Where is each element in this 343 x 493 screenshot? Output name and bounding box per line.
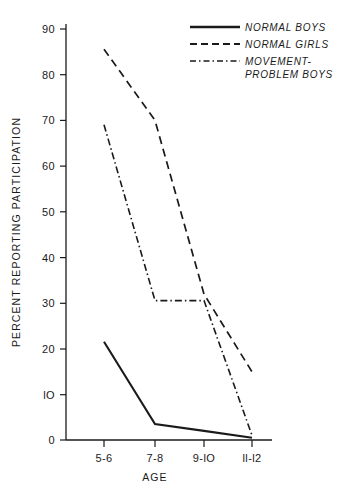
y-tick-label: 0 xyxy=(48,434,55,446)
y-axis-title: PERCENT REPORTING PARTICIPATION xyxy=(10,117,22,347)
x-tick-label: 5-6 xyxy=(95,452,112,464)
y-tick-label: 20 xyxy=(42,343,55,355)
line-chart: 90 80 70 60 50 40 30 20 lO 0 5-6 7-8 9-l… xyxy=(0,0,343,493)
x-axis-tick-labels: 5-6 7-8 9-lO ll-l2 xyxy=(95,452,261,464)
y-axis-tick-labels: 90 80 70 60 50 40 30 20 lO 0 xyxy=(42,23,55,446)
series-line-normal-boys xyxy=(104,342,252,438)
legend-label-movement-problem-boys-line2: PROBLEM BOYS xyxy=(245,69,333,80)
y-tick-label: 90 xyxy=(42,23,55,35)
y-tick-label: 50 xyxy=(42,206,55,218)
y-tick-label: 80 xyxy=(42,69,55,81)
series-line-movement-problem-boys xyxy=(104,125,252,436)
x-tick-label: ll-l2 xyxy=(242,452,261,464)
y-tick-label: 70 xyxy=(42,114,55,126)
y-tick-label: lO xyxy=(43,389,55,401)
legend-label-normal-boys: NORMAL BOYS xyxy=(245,22,326,33)
x-axis-ticks xyxy=(104,440,252,447)
y-tick-label: 60 xyxy=(42,160,55,172)
y-tick-label: 30 xyxy=(42,297,55,309)
x-tick-label: 7-8 xyxy=(146,452,163,464)
chart-figure: 90 80 70 60 50 40 30 20 lO 0 5-6 7-8 9-l… xyxy=(0,0,343,493)
x-tick-label: 9-lO xyxy=(193,452,215,464)
legend-label-movement-problem-boys-line1: MOVEMENT- xyxy=(245,56,312,67)
series-line-normal-girls xyxy=(104,49,252,372)
legend: NORMAL BOYS NORMAL GIRLS MOVEMENT- PROBL… xyxy=(190,22,333,80)
y-tick-label: 40 xyxy=(42,252,55,264)
legend-label-normal-girls: NORMAL GIRLS xyxy=(245,39,329,50)
y-axis-ticks xyxy=(60,29,66,440)
x-axis-title: AGE xyxy=(142,471,167,483)
